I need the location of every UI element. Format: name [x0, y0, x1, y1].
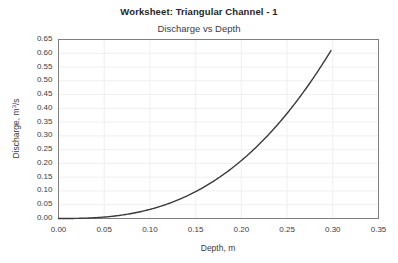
y-axis-tick-label: 0.05: [23, 199, 53, 208]
y-axis-tick-label: 0.35: [23, 117, 53, 126]
y-axis-tick-label: 0.20: [23, 158, 53, 167]
y-axis-tick-label: 0.15: [23, 172, 53, 181]
plot-frame: [59, 40, 379, 219]
y-axis-label-prefix: Discharge, m: [11, 108, 21, 158]
gridlines: [59, 40, 379, 219]
x-axis-tick-label: 0.15: [179, 225, 213, 234]
x-axis-label: Depth, m: [58, 243, 378, 253]
x-axis-tick-label: 0.20: [224, 225, 258, 234]
x-axis-tick-label: 0.30: [316, 225, 350, 234]
y-axis-tick-label: 0.65: [23, 34, 53, 43]
x-axis-tick-label: 0.10: [133, 225, 167, 234]
y-axis-tick-label: 0.40: [23, 103, 53, 112]
y-axis-tick-label: 0.30: [23, 130, 53, 139]
y-axis-tick-label: 0.55: [23, 62, 53, 71]
y-axis-label-text: Discharge, m3/s: [11, 98, 22, 158]
y-axis-label-suffix: /s: [11, 98, 21, 105]
chart-container: Worksheet: Triangular Channel - 1 Discha…: [0, 0, 398, 263]
series-line-discharge-vs-depth: [59, 51, 331, 219]
x-axis-tick-label: 0.00: [42, 225, 76, 234]
y-axis-tick-label: 0.00: [23, 213, 53, 222]
y-axis-tick-label: 0.10: [23, 185, 53, 194]
x-axis-tick-label: 0.25: [270, 225, 304, 234]
y-axis-tick-label: 0.25: [23, 144, 53, 153]
y-axis-tick-label: 0.50: [23, 75, 53, 84]
y-axis-label-exponent: 3: [11, 105, 17, 108]
x-axis-tick-label: 0.05: [87, 225, 121, 234]
y-axis-tick-label: 0.60: [23, 48, 53, 57]
y-axis-tick-label: 0.45: [23, 89, 53, 98]
x-axis-tick-label: 0.35: [362, 225, 396, 234]
